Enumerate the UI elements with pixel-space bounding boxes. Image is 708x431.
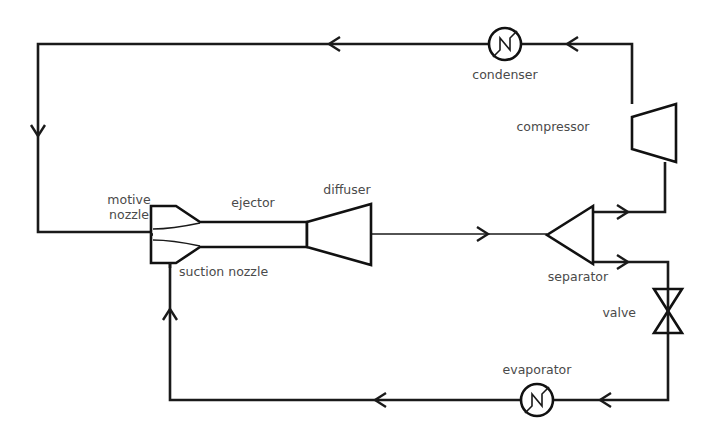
label-motive-nozzle-line2: nozzle [109,207,149,222]
label-suction-nozzle: suction nozzle [179,264,268,279]
ejector-body [151,206,307,263]
separator-body [547,206,593,264]
diffuser-body [307,204,371,265]
label-diffuser: diffuser [323,182,371,197]
label-valve: valve [602,305,636,320]
valve-symbol [654,289,682,333]
label-separator: separator [548,269,609,284]
pipe-evaporator-to-suction [170,258,521,400]
label-ejector: ejector [231,195,275,210]
compressor-body [632,104,676,162]
label-motive-nozzle-line1: motive [107,192,151,207]
evaporator-symbol [521,384,553,416]
label-evaporator: evaporator [503,362,573,377]
label-compressor: compressor [517,119,591,134]
pipe-compressor-discharge [593,162,665,212]
schematic-svg: condenser compressor separator valve eva… [0,0,708,431]
diagram-canvas: condenser compressor separator valve eva… [0,0,708,431]
label-condenser: condenser [472,67,538,82]
condenser-symbol [489,28,521,60]
